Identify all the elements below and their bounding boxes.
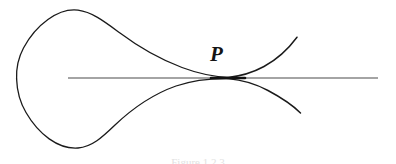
figure-caption-text: Figure 1.2.3 <box>171 157 224 164</box>
figure-canvas: P Figure 1.2.3 <box>0 0 396 164</box>
curve-diagram-svg <box>0 0 396 164</box>
figure-background <box>0 0 396 164</box>
figure-caption-remnant: Figure 1.2.3 <box>0 157 396 164</box>
point-label-p: P <box>210 44 223 65</box>
